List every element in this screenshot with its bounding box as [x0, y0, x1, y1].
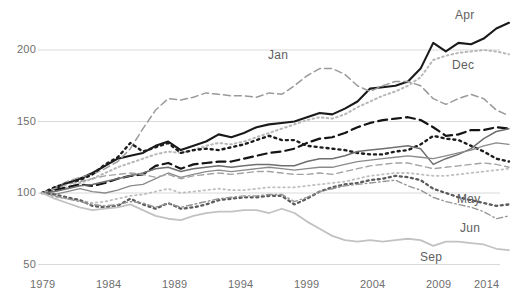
x-tick-label-1994: 1994	[228, 278, 253, 290]
series-label-apr: Apr	[455, 8, 475, 22]
index-line-chart: 200 150 100 50 1979 1984 1989 1994 1999 …	[0, 0, 515, 304]
x-tick-label-1989: 1989	[162, 278, 187, 290]
series-label-jan: Jan	[268, 48, 288, 62]
series-label-dec: Dec	[452, 58, 474, 72]
x-tick-label-2014: 2014	[474, 278, 499, 290]
series-label-sep: Sep	[420, 250, 442, 264]
series-label-jun: Jun	[460, 221, 480, 235]
gridlines	[38, 50, 500, 265]
x-tick-label-1979: 1979	[30, 278, 55, 290]
x-tick-label-1984: 1984	[96, 278, 121, 290]
series-label-may: May	[457, 192, 481, 206]
y-tick-label-200: 200	[6, 43, 36, 55]
x-tick-label-1999: 1999	[294, 278, 319, 290]
x-tick-label-2004: 2004	[360, 278, 385, 290]
x-tick-label-2009: 2009	[426, 278, 451, 290]
y-tick-label-100: 100	[6, 186, 36, 198]
y-tick-label-150: 150	[6, 115, 36, 127]
series-line-sep	[42, 193, 509, 250]
y-tick-label-50: 50	[6, 258, 36, 270]
series-line-feb	[42, 117, 509, 193]
series-line-nov	[42, 169, 509, 203]
